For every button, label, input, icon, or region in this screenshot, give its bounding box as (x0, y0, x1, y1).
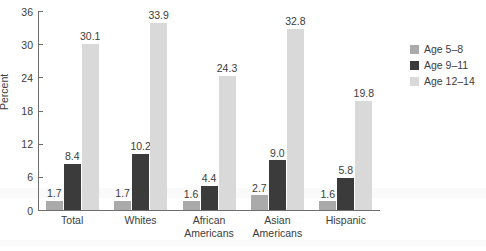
x-axis-category-label: Total (38, 214, 106, 227)
bar-group: 2.79.032.8 (251, 11, 304, 210)
bar-value-label: 4.4 (202, 173, 217, 184)
y-tick-label: 6 (27, 172, 33, 183)
bar: 9.0 (269, 160, 286, 210)
bar-group: 1.64.424.3 (183, 11, 236, 210)
bar-value-label: 1.7 (47, 188, 62, 199)
bar: 32.8 (287, 29, 304, 210)
legend-swatch-icon (410, 61, 419, 70)
bar: 30.1 (82, 44, 99, 210)
y-tick-label: 12 (21, 139, 33, 150)
legend-item: Age 12–14 (410, 73, 475, 89)
bar-group: 1.65.819.8 (319, 11, 372, 210)
bar: 1.7 (46, 201, 63, 210)
y-tick-label: 30 (21, 39, 33, 50)
bar-group: 1.710.233.9 (114, 11, 167, 210)
legend-label: Age 12–14 (424, 76, 475, 87)
bar: 5.8 (337, 178, 354, 210)
legend-item: Age 5–8 (410, 41, 475, 57)
legend-item: Age 9–11 (410, 57, 475, 73)
plot-area: 1.78.430.11.710.233.91.64.424.32.79.032.… (38, 11, 380, 210)
x-axis-category-label: Asian Americans (243, 214, 311, 239)
legend-label: Age 5–8 (424, 44, 463, 55)
bar-value-label: 1.6 (320, 189, 335, 200)
bar-value-label: 1.7 (115, 188, 130, 199)
legend-swatch-icon (410, 45, 419, 54)
bar: 19.8 (355, 101, 372, 210)
bar-value-label: 2.7 (252, 183, 267, 194)
bar-chart: 061218243036 Percent 1.78.430.11.710.233… (0, 0, 486, 251)
bar-value-label: 30.1 (80, 31, 100, 42)
bar: 33.9 (150, 23, 167, 210)
legend-swatch-icon (410, 77, 419, 86)
bar-value-label: 19.8 (354, 88, 374, 99)
bar: 4.4 (201, 186, 218, 210)
bar-value-label: 9.0 (270, 148, 285, 159)
bar-value-label: 8.4 (65, 151, 80, 162)
y-tick-0: 0 (38, 210, 43, 211)
bar: 1.6 (183, 201, 200, 210)
x-axis-category-label: Whites (106, 214, 174, 227)
bar-value-label: 1.6 (184, 189, 199, 200)
x-axis-category-label: African Americans (175, 214, 243, 239)
bar: 2.7 (251, 195, 268, 210)
legend: Age 5–8Age 9–11Age 12–14 (410, 41, 475, 89)
x-axis-baseline (38, 210, 380, 211)
bar-value-label: 32.8 (285, 16, 305, 27)
bar-group: 1.78.430.1 (46, 11, 99, 210)
bar-value-label: 24.3 (217, 63, 237, 74)
bar: 1.7 (114, 201, 131, 210)
y-tick-label: 36 (21, 6, 33, 17)
y-axis-title: Percent (0, 74, 10, 110)
scan-artifact-band-lower (0, 240, 486, 246)
bar: 1.6 (319, 201, 336, 210)
y-tick-label: 0 (27, 205, 33, 216)
bar: 10.2 (132, 154, 149, 210)
x-axis-category-label: Hispanic (312, 214, 380, 227)
y-tick-label: 18 (21, 106, 33, 117)
bar: 24.3 (219, 76, 236, 210)
bar-value-label: 5.8 (338, 165, 353, 176)
bar-value-label: 33.9 (148, 10, 168, 21)
bar: 8.4 (64, 164, 81, 210)
legend-label: Age 9–11 (424, 60, 468, 71)
bar-value-label: 10.2 (130, 141, 150, 152)
y-tick-mark (38, 210, 43, 211)
y-tick-label: 24 (21, 73, 33, 84)
